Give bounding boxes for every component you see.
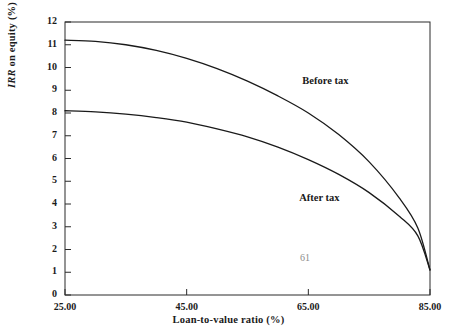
chart-figure: IRR on equity (%) Loan-to-value ratio (%… (0, 0, 457, 336)
y-tick-label: 1 (31, 265, 57, 276)
axis-frame (65, 22, 430, 295)
series-annotation-after-tax: After tax (299, 192, 339, 203)
y-tick-label: 12 (31, 15, 57, 26)
y-tick-label: 0 (31, 288, 57, 299)
x-tick-label: 85.00 (400, 301, 457, 312)
y-tick-label: 10 (31, 61, 57, 72)
series-annotation-before-tax: Before tax (302, 75, 348, 86)
page-number: 61 (300, 252, 310, 263)
x-tick-label: 25.00 (35, 301, 95, 312)
y-tick-label: 4 (31, 197, 57, 208)
axis-ticks (65, 22, 430, 295)
y-tick-label: 2 (31, 243, 57, 254)
plot-area (0, 0, 457, 336)
y-tick-label: 6 (31, 152, 57, 163)
y-tick-label: 8 (31, 106, 57, 117)
y-tick-label: 9 (31, 83, 57, 94)
data-series-group (65, 40, 430, 270)
y-tick-label: 11 (31, 38, 57, 49)
y-tick-label: 7 (31, 129, 57, 140)
series-line-after-tax (65, 111, 430, 270)
plot-frame (65, 22, 430, 295)
x-tick-label: 65.00 (278, 301, 338, 312)
y-tick-label: 5 (31, 174, 57, 185)
series-line-before-tax (65, 40, 430, 270)
y-tick-label: 3 (31, 220, 57, 231)
x-tick-label: 45.00 (157, 301, 217, 312)
